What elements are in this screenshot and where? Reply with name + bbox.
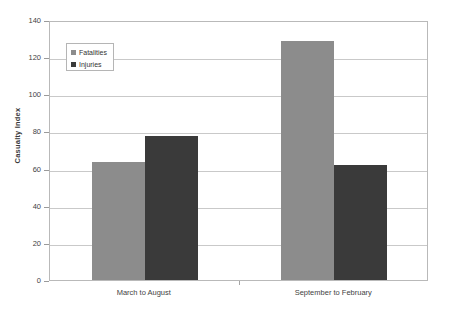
y-tick-label: 140 [28,16,41,25]
y-tick-label: 100 [28,90,41,99]
x-category-label: March to August [74,288,214,297]
y-tick-label: 20 [33,239,41,248]
legend-swatch-fatalities [71,50,76,55]
bar-injuries-1 [145,136,198,280]
y-tick-label: 0 [37,276,41,285]
y-tick-label: 80 [33,127,41,136]
bar-chart: Casualty Index 020406080100120140 March … [0,0,450,311]
gridline [50,96,427,97]
y-axis-title: Casualty Index [13,86,22,186]
y-tick-label: 40 [33,202,41,211]
bar-fatalities-1 [92,162,145,280]
legend-item-injuries: Injuries [71,59,110,70]
x-category-label: September to February [263,288,403,297]
y-tick-label: 120 [28,53,41,62]
x-tick-mark [239,281,240,285]
legend-item-fatalities: Fatalities [71,47,110,58]
gridline [50,133,427,134]
legend-label-fatalities: Fatalities [79,47,107,58]
legend-label-injuries: Injuries [79,59,102,70]
legend: Fatalities Injuries [66,43,114,71]
bar-injuries-2 [334,165,387,280]
bar-fatalities-2 [281,41,334,280]
legend-swatch-injuries [71,62,76,67]
y-tick-label: 60 [33,165,41,174]
y-tick-mark [44,281,49,282]
